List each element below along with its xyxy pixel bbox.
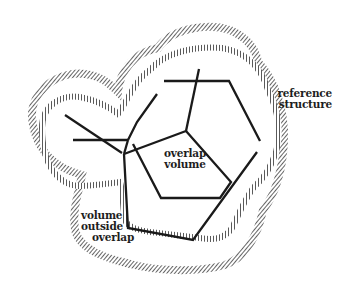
overlap-diagram: reference structure overlap volume volum… [0,0,342,290]
label-overlap-volume: overlap volume [150,148,220,170]
label-line: structure [274,99,332,110]
label-reference-structure: reference structure [274,88,332,110]
label-line: overlap [81,232,134,243]
label-line: volume [150,159,220,170]
diagram-canvas [0,0,342,290]
label-volume-outside-overlap: volume outside overlap [81,210,134,243]
